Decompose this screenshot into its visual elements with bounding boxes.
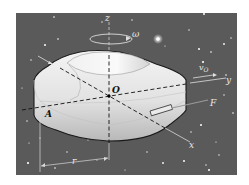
y-axis-label: y [225, 75, 232, 85]
origin-point [107, 94, 110, 97]
x-axis-label: x [189, 140, 194, 150]
force-label: F [209, 98, 217, 108]
omega-label: ω [132, 29, 140, 39]
point-a-label: A [44, 109, 52, 119]
diagram-figure: z ω x y vO O A F r [0, 0, 249, 185]
radius-label: r [72, 156, 77, 166]
z-axis-label: z [104, 13, 110, 23]
origin-label: O [112, 85, 120, 95]
